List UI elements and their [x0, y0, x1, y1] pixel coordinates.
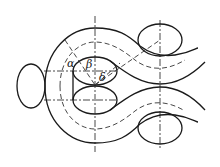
- channel-midline-upper: [60, 42, 185, 86]
- right-outer-curve-lower: [140, 115, 198, 124]
- label-delta: δ: [99, 72, 106, 83]
- channel-midline-lower: [60, 86, 185, 129]
- diagram-canvas: [0, 0, 220, 167]
- left-oval: [17, 64, 45, 108]
- inner-curve-lower: [110, 87, 205, 110]
- label-alpha: α: [67, 58, 74, 69]
- label-beta: β: [86, 59, 92, 70]
